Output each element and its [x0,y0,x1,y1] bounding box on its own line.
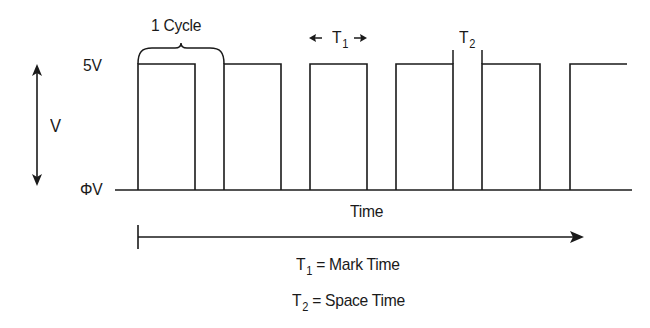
time-axis-arrow [138,225,584,249]
legend-mark-time: T1 = Mark Time [296,255,400,278]
pulse-2 [224,64,281,190]
t2-subscript: 2 [469,37,475,51]
t2-span-ticks [453,50,482,64]
voltage-axis-label: V [50,116,61,137]
voltage-axis-arrow [32,64,42,186]
legend-t1-text: = Mark Time [316,255,399,274]
time-axis-label: Time [350,202,383,222]
t2-symbol: T [459,28,468,47]
timing-diagram [0,0,650,328]
high-level-label: 5V [83,56,102,76]
pulse-3 [310,64,367,190]
pulse-6 [570,64,627,190]
cycle-label: 1 Cycle [151,16,201,36]
pulse-5 [482,64,540,190]
t2-label: T2 [459,28,475,51]
legend-space-time: T2 = Space Time [292,291,405,314]
pulse-1 [138,64,195,190]
t1-subscript: 1 [342,37,348,51]
legend-t1-symbol: T [296,255,305,274]
legend-t2-subscript: 2 [302,300,308,314]
cycle-brace [138,43,224,64]
legend-t2-text: = Space Time [312,291,405,310]
square-wave [138,64,627,190]
legend-t1-subscript: 1 [306,264,312,278]
t1-symbol: T [332,28,341,47]
low-level-label: ΦV [80,180,102,200]
t1-label: T1 [332,28,348,51]
legend-t2-symbol: T [292,291,301,310]
pulse-4 [396,64,453,190]
